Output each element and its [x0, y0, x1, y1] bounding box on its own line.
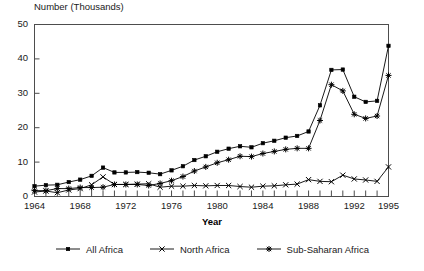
- x-tick-label: 1988: [289, 201, 329, 211]
- series-all-africa: [33, 44, 390, 188]
- y-tick-label: 30: [2, 88, 28, 98]
- x-tick-label: 1984: [243, 201, 283, 211]
- legend-marker-filled-square-icon: [55, 243, 81, 255]
- x-tick-label: 1964: [15, 201, 55, 211]
- series-north-africa: [32, 164, 391, 195]
- x-tick-label: 1995: [369, 201, 409, 211]
- y-tick-label: 10: [2, 157, 28, 167]
- y-axis-ticks: [35, 25, 40, 197]
- x-tick-label: 1980: [197, 201, 237, 211]
- legend-item-all-africa[interactable]: All Africa: [55, 243, 123, 255]
- x-tick-label: 1976: [152, 201, 192, 211]
- y-tick-label: 20: [2, 122, 28, 132]
- legend-label: North Africa: [180, 244, 230, 255]
- y-tick-label: 50: [2, 19, 28, 29]
- x-axis-title: Year: [0, 216, 424, 227]
- legend-label: All Africa: [86, 244, 123, 255]
- line-chart-plot: [0, 0, 424, 271]
- x-axis-ticks: [35, 191, 389, 197]
- legend-label: Sub-Saharan Africa: [287, 244, 369, 255]
- y-tick-label: 40: [2, 53, 28, 63]
- legend-item-north-africa[interactable]: North Africa: [149, 243, 230, 255]
- chart-legend: All AfricaNorth AfricaSub-Saharan Africa: [0, 243, 424, 255]
- chart-figure: Number (Thousands) 01020304050 196419681…: [0, 0, 424, 271]
- legend-marker-x-icon: [149, 243, 175, 255]
- x-tick-label: 1968: [60, 201, 100, 211]
- x-tick-label: 1972: [106, 201, 146, 211]
- series-sub-saharan-africa: [32, 72, 392, 193]
- legend-item-sub-saharan-africa[interactable]: Sub-Saharan Africa: [256, 243, 369, 255]
- plot-frame: [35, 25, 389, 197]
- legend-marker-star-icon: [256, 243, 282, 255]
